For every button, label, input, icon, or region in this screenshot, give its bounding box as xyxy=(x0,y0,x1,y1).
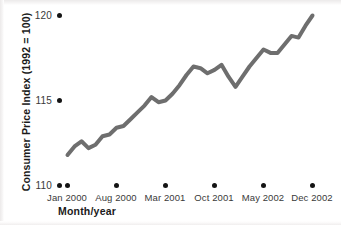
cpi-series-line xyxy=(68,16,313,155)
cpi-line-chart: Consumer Price Index (1992 = 100) 120 11… xyxy=(0,0,341,225)
plot-area xyxy=(0,0,341,225)
